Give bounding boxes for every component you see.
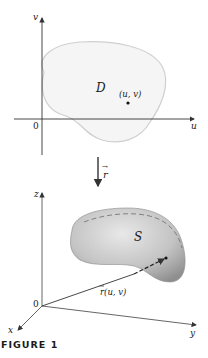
x-axis	[18, 306, 42, 330]
position-vector-mark: →	[99, 282, 104, 289]
region-d-label: D	[95, 81, 106, 95]
y-axis-label: y	[189, 328, 196, 338]
uv-origin-label: 0	[33, 121, 39, 131]
mapping-vector-mark: →	[102, 163, 108, 171]
uv-plane: v u 0 D (u, v)	[14, 12, 197, 155]
figure-caption: FIGURE 1	[1, 339, 58, 350]
xyz-space: z y x 0 S r(u, v) →	[8, 189, 196, 338]
x-axis-label: x	[8, 325, 13, 335]
surface-s-label: S	[134, 230, 142, 244]
xyz-origin-label: 0	[33, 299, 39, 309]
z-axis-label: z	[33, 189, 39, 199]
figure-canvas: v u 0 D (u, v) r → z y x 0 S r(u, v) →	[0, 0, 208, 358]
mapping-arrow: r →	[98, 157, 109, 186]
y-axis	[42, 306, 196, 325]
u-axis-label: u	[191, 121, 197, 131]
surface-point	[164, 256, 167, 259]
point-uv	[126, 101, 129, 104]
surface-s	[70, 208, 185, 282]
v-axis-label: v	[33, 12, 38, 22]
point-uv-label: (u, v)	[119, 89, 141, 99]
